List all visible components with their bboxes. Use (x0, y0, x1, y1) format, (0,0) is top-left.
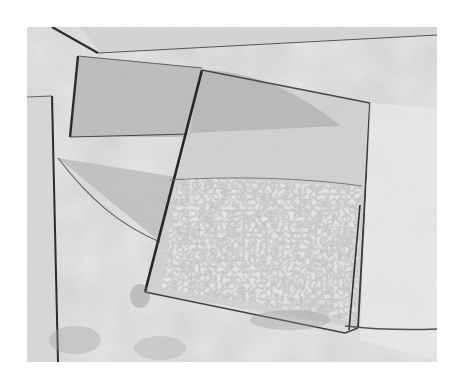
photograph (27, 27, 437, 362)
photo-scene (27, 27, 437, 362)
